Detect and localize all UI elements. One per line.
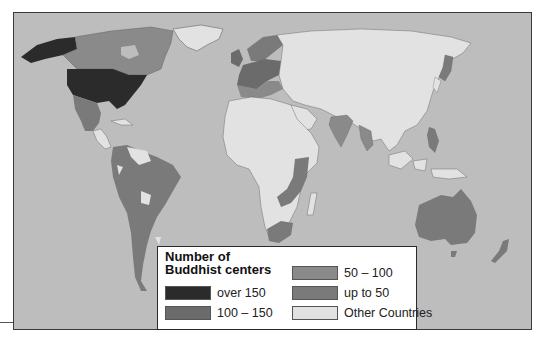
region-greenland [173, 25, 223, 51]
legend-item-50-100: 50 – 100 [292, 266, 393, 280]
legend-label: up to 50 [344, 286, 389, 300]
legend-label: over 150 [217, 286, 266, 300]
legend-item-up-to-50: up to 50 [292, 286, 389, 300]
legend-label: Other Countries [344, 306, 432, 320]
region-new-zealand [491, 239, 509, 263]
legend-title-line2: Buddhist centers [165, 263, 271, 276]
legend-swatch [165, 286, 211, 300]
legend-item-other-countries: Other Countries [292, 306, 432, 320]
region-scandinavia [247, 35, 283, 61]
region-philippines [427, 127, 439, 153]
region-tasmania [451, 251, 457, 257]
region-australia [415, 189, 477, 245]
leader-line [0, 322, 14, 323]
legend-title: Number of Buddhist centers [165, 250, 271, 276]
region-indonesia [389, 151, 467, 179]
legend-swatch [292, 286, 338, 300]
legend-item-100-150: 100 – 150 [165, 306, 273, 320]
legend: Number of Buddhist centers over 150 100 … [157, 246, 417, 330]
legend-label: 50 – 100 [344, 266, 393, 280]
legend-swatch [292, 266, 338, 280]
region-central-america [93, 129, 111, 149]
legend-swatch [165, 306, 211, 320]
region-caribbean [111, 119, 133, 125]
region-canada [63, 27, 173, 75]
region-madagascar [307, 193, 317, 215]
region-india [329, 115, 353, 147]
region-united-kingdom [231, 49, 243, 67]
legend-swatch [292, 306, 338, 320]
legend-label: 100 – 150 [217, 306, 273, 320]
legend-item-over-150: over 150 [165, 286, 266, 300]
